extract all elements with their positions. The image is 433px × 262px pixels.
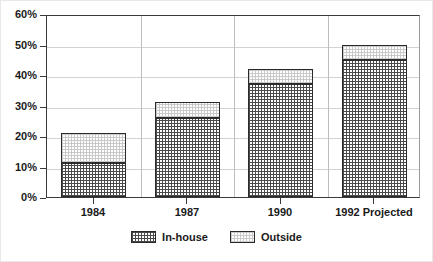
bar-segment-in-house [155, 118, 220, 197]
x-axis-tick-label: 1992 Projected [327, 206, 421, 218]
y-axis-tick-label: 10% [0, 161, 37, 173]
stacked-bar-chart: 0%10%20%30%40%50%60% 1984198719901992 Pr… [0, 0, 433, 262]
bar-segment-in-house [342, 60, 407, 197]
gridline-vertical [141, 16, 142, 197]
y-axis-tick-label: 20% [0, 130, 37, 142]
legend-label: In-house [162, 231, 208, 243]
gridline-vertical [234, 16, 235, 197]
legend-item[interactable]: Outside [230, 231, 302, 243]
bar-group [155, 14, 220, 197]
bar-segment-outside [248, 69, 313, 84]
bar-segment-outside [155, 102, 220, 117]
gridline-vertical [328, 16, 329, 197]
x-axis-tick-mark [93, 198, 94, 204]
bar-group [248, 14, 313, 197]
y-axis-tick-label: 60% [0, 8, 37, 20]
bar-segment-in-house [61, 163, 126, 197]
y-axis-tick-label: 50% [0, 39, 37, 51]
bar-segment-in-house [248, 84, 313, 197]
y-axis-tick-label: 40% [0, 69, 37, 81]
y-axis-tick-label: 30% [0, 100, 37, 112]
x-axis-tick-label: 1990 [233, 206, 327, 218]
x-axis-tick-label: 1987 [140, 206, 234, 218]
bar-group [61, 14, 126, 197]
bar-group [342, 14, 407, 197]
legend-item[interactable]: In-house [131, 231, 208, 243]
legend-swatch-icon [131, 231, 156, 243]
y-axis-tick-mark [40, 198, 46, 199]
x-axis-tick-mark [373, 198, 374, 204]
chart-legend: In-houseOutside [0, 231, 433, 243]
legend-label: Outside [261, 231, 302, 243]
plot-area [46, 15, 420, 198]
y-axis-tick-label: 0% [0, 191, 37, 203]
bar-segment-outside [342, 45, 407, 60]
x-axis-tick-mark [186, 198, 187, 204]
bar-segment-outside [61, 133, 126, 164]
x-axis-tick-label: 1984 [46, 206, 140, 218]
x-axis-tick-mark [280, 198, 281, 204]
legend-swatch-icon [230, 231, 255, 243]
